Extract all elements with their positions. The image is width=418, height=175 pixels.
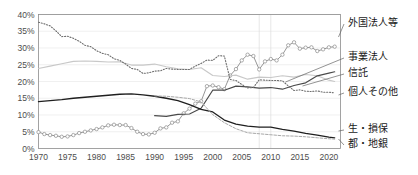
series-marker [43,132,46,135]
legend-label-1: 事業法人 [348,52,388,62]
series-marker [106,124,109,127]
y-axis-tick-label: 5% [22,127,35,137]
x-axis-tick-label: 2005 [232,152,251,162]
legend-label-5: 都・地銀 [348,139,388,149]
series-marker [298,47,301,50]
axis-label-layer: 0%5%10%15%20%25%30%35%40%197019751980198… [17,10,338,162]
series-marker [292,41,295,44]
x-axis-tick-label: 2010 [261,152,280,162]
series-marker [188,107,191,110]
series-line-0 [39,42,335,136]
series-marker [316,49,319,52]
series-marker [60,135,63,138]
series-marker [287,44,290,47]
series-marker [153,131,156,134]
series-marker [275,59,278,62]
series-marker [170,121,173,124]
series-marker [118,123,121,126]
series-marker [269,57,272,60]
series-marker [48,133,51,136]
series-marker [281,53,284,56]
series-marker [327,46,330,49]
series-marker [66,135,69,138]
series-marker [77,131,80,134]
y-axis-tick-label: 35% [17,26,34,36]
legend-leader-line [286,58,345,82]
series-marker [176,120,179,123]
series-marker [194,102,197,105]
series-marker [159,127,162,130]
series-marker [263,60,266,63]
x-axis-tick-label: 1990 [145,152,164,162]
legend-leader-line [339,93,345,95]
y-axis-tick-label: 40% [17,10,34,20]
series-line-1 [39,61,335,81]
legend-label-4: 生・損保 [348,124,388,134]
series-marker [136,130,139,133]
y-axis-tick-label: 25% [17,60,34,70]
legend-leader-line [303,74,345,86]
x-axis-tick-label: 1975 [58,152,77,162]
series-marker [211,84,214,87]
series-marker [310,46,313,49]
legend-leader-line [339,130,345,131]
x-axis-tick-label: 1970 [29,152,48,162]
x-axis-tick-label: 2020 [319,152,338,162]
legend-leader-line [339,139,345,145]
series-line-3 [39,22,335,93]
series-marker [217,85,220,88]
series-marker [333,45,336,48]
series-marker [205,84,208,87]
legend-leader-line [339,24,345,37]
series-marker [240,59,243,62]
series-marker [321,48,324,51]
legend-label-2: 信託 [348,68,368,78]
legend-label-3: 個人その他 [348,87,398,97]
series-marker [252,54,255,57]
series-marker [95,127,98,130]
legend-label-0: 外国法人等 [348,18,398,28]
series-marker [257,68,260,71]
y-axis-tick-label: 30% [17,43,34,53]
series-marker [112,123,115,126]
y-axis-tick-label: 20% [17,77,34,87]
x-axis-tick-label: 2000 [203,152,222,162]
series-marker [130,126,133,129]
series-marker [304,46,307,49]
series-marker [147,133,150,136]
series-marker [37,130,40,133]
x-axis-tick-label: 1995 [174,152,193,162]
series-marker [246,53,249,56]
x-axis-tick-label: 1985 [116,152,135,162]
series-line-4 [39,94,335,138]
stock-ownership-chart: 0%5%10%15%20%25%30%35%40%197019751980198… [0,0,418,175]
series-marker [83,130,86,133]
series-marker [165,126,168,129]
series-marker [124,123,127,126]
series-marker [234,67,237,70]
series-marker [89,129,92,132]
x-axis-tick-label: 1980 [87,152,106,162]
series-layer [37,22,337,139]
y-axis-tick-label: 10% [17,110,34,120]
series-marker [101,126,104,129]
series-marker [72,133,75,136]
series-marker [54,134,57,137]
series-marker [141,132,144,135]
grid-layer [39,15,341,149]
x-axis-tick-label: 2015 [290,152,309,162]
y-axis-tick-label: 15% [17,93,34,103]
